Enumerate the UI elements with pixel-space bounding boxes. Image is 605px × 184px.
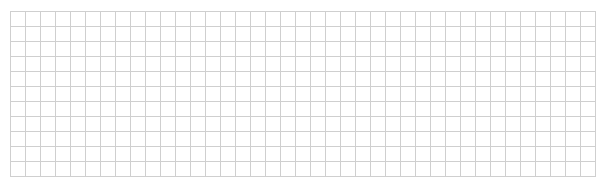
grid-canvas xyxy=(10,11,596,177)
